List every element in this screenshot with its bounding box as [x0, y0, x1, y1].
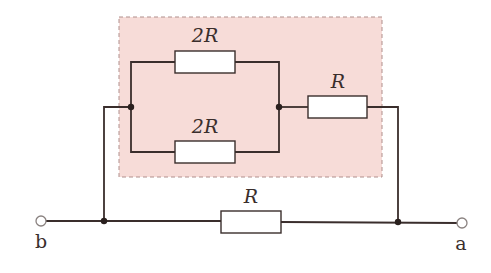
resistor-bottom-2r — [175, 141, 235, 163]
junction-node-bottom-right — [395, 219, 401, 225]
junction-node-right-parallel — [276, 104, 282, 110]
terminal-a — [457, 218, 467, 228]
junction-node-bottom-left — [101, 218, 107, 224]
terminal-label-a: a — [455, 232, 466, 254]
bottom-right-wire — [281, 222, 458, 223]
label-bottom-2r: 2R — [191, 115, 218, 137]
circuit-diagram: 2R 2R R R b a — [0, 0, 491, 273]
resistor-series-r — [308, 96, 367, 118]
label-direct-r: R — [243, 185, 258, 207]
junction-node-left-parallel — [128, 104, 134, 110]
label-top-2r: 2R — [191, 24, 218, 46]
label-series-r: R — [330, 70, 345, 92]
resistor-top-2r — [175, 51, 235, 73]
terminal-label-b: b — [35, 230, 47, 252]
terminal-b — [36, 216, 46, 226]
resistor-direct-r — [221, 211, 281, 233]
